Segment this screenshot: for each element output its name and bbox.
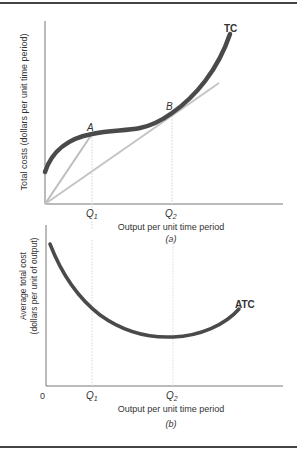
tc-curve: [45, 34, 230, 172]
panel-b: ATC 0 Q1 Q2 Output per unit time period …: [18, 225, 283, 429]
top-border: [0, 2, 297, 4]
atc-label: ATC: [235, 299, 255, 310]
tc-label: TC: [224, 23, 237, 34]
point-b-label: B: [166, 101, 173, 112]
q2-label-b: Q2: [166, 390, 178, 402]
q1-label-b: Q1: [86, 390, 98, 402]
bottom-border: [0, 446, 297, 448]
x-axis-title-a: Output per unit time period: [118, 222, 225, 232]
q1-label-a: Q1: [86, 208, 98, 220]
origin-label: 0: [40, 391, 45, 401]
caption-b: (b): [166, 419, 177, 429]
figure: A B TC Q1 Q2 Output per unit time period…: [0, 0, 297, 453]
caption-a: (a): [166, 234, 177, 244]
y-axis-title-b-line2: (dollars per unit of output): [29, 237, 39, 334]
x-axis-title-b: Output per unit time period: [118, 404, 225, 414]
q2-label-a: Q2: [165, 208, 177, 220]
ray-tangent-b: [45, 83, 219, 204]
panel-a: A B TC Q1 Q2 Output per unit time period…: [19, 21, 283, 244]
y-axis-title-b-line1: Average total cost: [18, 251, 28, 320]
atc-curve: [50, 244, 239, 337]
y-axis-title-a: Total costs (dollars per unit time perio…: [19, 33, 29, 190]
point-a-label: A: [86, 122, 94, 133]
